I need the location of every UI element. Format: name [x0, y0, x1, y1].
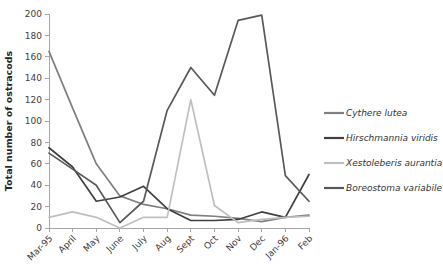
chart-svg: 020406080100120140160180200 Mar-95AprilM…: [0, 0, 443, 276]
legend-label-cythere-lutea: Cythere lutea: [346, 108, 407, 118]
y-tick-label: 160: [25, 52, 42, 62]
x-tick-label: Oct: [202, 233, 220, 251]
y-tick-label: 20: [31, 202, 43, 212]
x-tick-label: April: [56, 233, 78, 255]
legend-label-xestoleberis-aurantia: Xestoleberis aurantia: [345, 158, 442, 168]
x-tick-label: Mar-95: [25, 233, 54, 262]
x-tick-label: Sept: [175, 233, 197, 255]
y-axis-ticks: 020406080100120140160180200: [25, 9, 49, 233]
y-tick-label: 80: [31, 138, 43, 148]
x-axis-ticks: Mar-95AprilMayJuneJulyAugSeptOctNovDecJa…: [25, 228, 314, 262]
x-tick-label: July: [130, 233, 150, 253]
y-tick-label: 0: [36, 223, 42, 233]
series-line-xestoleberis-aurantia: [49, 100, 309, 228]
x-tick-label: Jan-96: [263, 233, 291, 261]
x-tick-label: May: [81, 233, 102, 254]
y-tick-label: 40: [31, 180, 43, 190]
legend-label-hirschmannia-viridis: Hirschmannia viridis: [346, 133, 438, 143]
series-group: [49, 15, 309, 228]
x-tick-label: Aug: [153, 233, 173, 253]
x-tick-label: Nov: [224, 233, 244, 253]
y-tick-label: 140: [25, 73, 42, 83]
y-tick-label: 60: [31, 159, 43, 169]
x-tick-label: June: [104, 233, 126, 255]
series-line-boreostoma-variabile: [49, 15, 309, 223]
legend-label-boreostoma-variabile: Boreostoma variabile: [346, 183, 443, 193]
line-chart-figure: 020406080100120140160180200 Mar-95AprilM…: [0, 0, 443, 276]
x-tick-label: Feb: [296, 233, 315, 252]
chart-legend: Cythere luteaHirschmannia viridisXestole…: [324, 108, 443, 193]
y-tick-label: 120: [25, 95, 42, 105]
x-tick-label: Dec: [248, 233, 267, 252]
y-tick-label: 200: [25, 9, 42, 19]
y-tick-label: 180: [25, 31, 42, 41]
y-tick-label: 100: [25, 116, 42, 126]
y-axis-title: Total number of ostracods: [3, 50, 14, 191]
